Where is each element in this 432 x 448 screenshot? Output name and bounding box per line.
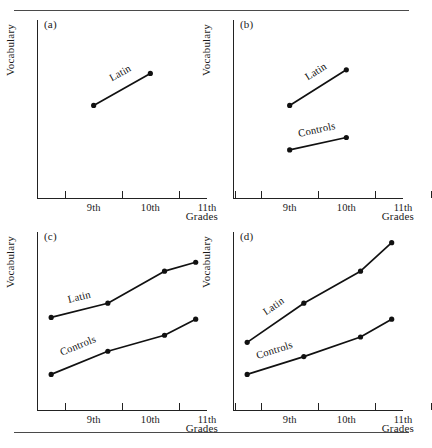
axis-x-tick-label: 9th xyxy=(71,202,117,214)
series-lines-a xyxy=(37,20,207,198)
data-point xyxy=(91,103,96,108)
series-lines-c xyxy=(37,232,207,410)
axis-x-tick-label: 10th xyxy=(323,202,369,214)
data-point xyxy=(162,333,167,338)
series-line-latin xyxy=(51,262,196,317)
panel-c: (c) Vocabulary 9th10th11th LatinControls… xyxy=(18,228,216,436)
axis-y-title: Vocabulary xyxy=(201,0,212,24)
data-point xyxy=(301,354,306,359)
series-line-latin xyxy=(247,243,391,343)
axis-x-line xyxy=(37,410,207,411)
plot-area-c: 9th10th11th LatinControls xyxy=(37,232,207,410)
plot-area-d: 9th10th11th LatinControls xyxy=(233,232,403,410)
plot-area-b: 9th10th11th LatinControls xyxy=(233,20,403,198)
axis-x-line xyxy=(37,198,207,199)
data-point xyxy=(245,340,250,345)
data-point xyxy=(49,372,54,377)
data-point xyxy=(148,71,153,76)
series-label-latin: Latin xyxy=(318,88,341,99)
data-point xyxy=(389,240,394,245)
axis-y-title: Vocabulary xyxy=(5,0,16,24)
data-point xyxy=(287,147,292,152)
axis-x-tick-label: 9th xyxy=(267,202,313,214)
data-point xyxy=(49,315,54,320)
data-point xyxy=(389,317,394,322)
axis-y-title: Vocabulary xyxy=(201,184,212,236)
axis-x-tick-label: 10th xyxy=(127,202,173,214)
panel-d: (d) Vocabulary 9th10th11th LatinControls… xyxy=(214,228,412,436)
data-point xyxy=(162,269,167,274)
data-point xyxy=(358,334,363,339)
panel-a: (a) Vocabulary 9th10th11th Latin Grades xyxy=(18,16,216,224)
axis-x-tick-label: 10th xyxy=(323,414,369,426)
data-point xyxy=(301,301,306,306)
axis-x-tick-label: 9th xyxy=(267,414,313,426)
axis-y-title: Vocabulary xyxy=(5,184,16,236)
data-point xyxy=(193,317,198,322)
data-point xyxy=(358,269,363,274)
axis-x-title: Grades xyxy=(382,422,414,434)
data-point xyxy=(245,372,250,377)
series-lines-b xyxy=(233,20,403,198)
series-label-controls: Controls xyxy=(318,144,356,155)
plot-area-a: 9th10th11th Latin xyxy=(37,20,207,198)
series-lines-d xyxy=(233,232,403,410)
axis-x-tick-label: 10th xyxy=(127,414,173,426)
data-point xyxy=(105,349,110,354)
axis-x-tick-label: 9th xyxy=(71,414,117,426)
data-point xyxy=(344,135,349,140)
axis-x-line xyxy=(233,198,403,199)
data-point xyxy=(287,103,292,108)
series-label-latin: Latin xyxy=(122,89,145,100)
series-label-controls: Controls xyxy=(80,363,118,374)
data-point xyxy=(193,260,198,265)
series-label-latin: Latin xyxy=(276,323,299,334)
data-point xyxy=(344,67,349,72)
axis-x-title: Grades xyxy=(382,210,414,222)
series-label-controls: Controls xyxy=(276,366,314,377)
axis-x-line xyxy=(233,410,403,411)
series-label-latin: Latin xyxy=(80,310,103,321)
panel-b: (b) Vocabulary 9th10th11th LatinControls… xyxy=(214,16,412,224)
data-point xyxy=(105,301,110,306)
